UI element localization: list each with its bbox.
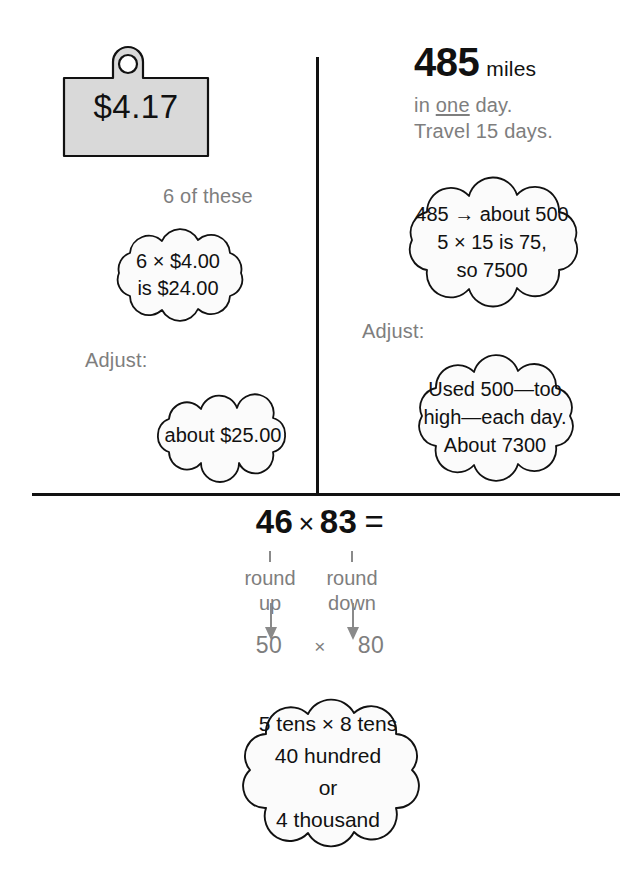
- price-tag-value: $4.17: [64, 88, 208, 126]
- estimate-cloud-right: 485 → about 500 5 × 15 is 75, so 7500: [385, 180, 599, 304]
- rounded-value-right: 80: [340, 632, 402, 659]
- travel-days-line: Travel 15 days.: [414, 120, 629, 143]
- horizontal-divider: [32, 493, 620, 496]
- equation-left-factor: 46: [256, 503, 294, 540]
- one-day-emphasis: one: [436, 94, 470, 116]
- rounded-product-row: 50×80: [0, 632, 640, 659]
- cloud-line: 5 tens × 8 tens: [259, 708, 397, 740]
- cloud-line: 40 hundred: [275, 740, 381, 772]
- round-up-line1: round: [244, 567, 295, 589]
- cloud-line: is $24.00: [137, 275, 218, 302]
- one-day-suffix: day.: [470, 94, 513, 116]
- round-down-line1: round: [326, 567, 377, 589]
- adjusted-cloud-right: Used 500—too high—each day. About 7300: [398, 354, 592, 480]
- adjusted-cloud-left-text: about $25.00: [133, 397, 313, 473]
- result-cloud-text: 5 tens × 8 tens 40 hundred or 4 thousand: [222, 692, 434, 852]
- estimate-cloud-right-text: 485 → about 500 5 × 15 is 75, so 7500: [385, 180, 599, 304]
- miles-number-row: 485miles: [414, 40, 629, 85]
- quantity-label: 6 of these: [163, 185, 253, 208]
- adjust-label-left: Adjust:: [85, 349, 148, 372]
- adjusted-cloud-left: about $25.00: [133, 397, 313, 473]
- adjust-label-right: Adjust:: [362, 320, 425, 343]
- cloud-line: 5 × 15 is 75,: [437, 228, 547, 256]
- miles-number: 485: [414, 40, 479, 84]
- equation-right-factor: 83: [320, 503, 358, 540]
- tick-mark-icon: [269, 551, 271, 562]
- cloud-line: high—each day.: [423, 403, 566, 431]
- cloud-line: 4 thousand: [276, 804, 380, 836]
- cloud-line: or: [319, 772, 338, 804]
- equation-equals: =: [357, 503, 384, 540]
- cloud-line: 485 → about 500: [415, 200, 568, 228]
- adjusted-cloud-right-text: Used 500—too high—each day. About 7300: [398, 354, 592, 480]
- cloud-line: 6 × $4.00: [136, 248, 220, 275]
- equation-operator: ×: [293, 509, 319, 539]
- price-tag: $4.17: [56, 36, 216, 161]
- bottom-equation: 46×83=: [0, 503, 640, 541]
- estimate-cloud-left-text: 6 × $4.00 is $24.00: [98, 229, 258, 321]
- diagram-canvas: $4.17 6 of these 6 × $4.00 is $24.00 Adj…: [0, 0, 640, 886]
- miles-unit: miles: [486, 57, 536, 80]
- rounded-product-operator: ×: [300, 636, 340, 658]
- vertical-divider: [316, 57, 319, 494]
- cloud-line: Used 500—too: [428, 375, 561, 403]
- estimate-cloud-left: 6 × $4.00 is $24.00: [98, 229, 258, 321]
- tick-mark-icon: [351, 551, 353, 562]
- one-day-prefix: in: [414, 94, 436, 116]
- cloud-line: About 7300: [444, 431, 546, 459]
- one-day-line: in one day.: [414, 94, 629, 117]
- cloud-line: about $25.00: [165, 422, 282, 448]
- cloud-line: so 7500: [456, 256, 527, 284]
- miles-headline: 485miles in one day. Travel 15 days.: [414, 40, 629, 143]
- rounded-value-left: 50: [238, 632, 300, 659]
- result-cloud-bottom: 5 tens × 8 tens 40 hundred or 4 thousand: [222, 692, 434, 852]
